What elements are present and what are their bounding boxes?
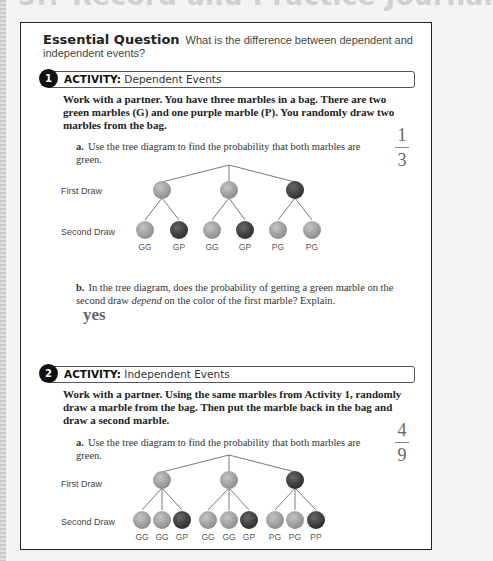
green-marble-icon	[203, 221, 221, 239]
answer-fraction: 4 9	[393, 421, 411, 464]
outcome-label: GG	[135, 532, 148, 542]
answer-yes: yes	[83, 305, 106, 325]
second-draw-label: Second Draw	[61, 227, 116, 237]
activity-title-bar: ACTIVITY: Dependent Events	[47, 71, 415, 88]
purple-marble-icon	[173, 511, 191, 529]
outcome-label: GG	[205, 242, 218, 252]
first-draw-label: First Draw	[61, 479, 102, 489]
activity-number-badge: 2	[39, 364, 58, 383]
fraction-bar	[395, 147, 409, 148]
part-letter: b.	[76, 282, 84, 293]
outcome-label: GP	[173, 242, 186, 252]
outcome-label: GG	[155, 532, 168, 542]
journal-box: Essential QuestionWhat is the difference…	[20, 22, 432, 550]
second-draw-marbles	[136, 221, 321, 239]
green-marble-icon	[133, 511, 151, 529]
activity-1-prompt: Work with a partner. You have three marb…	[63, 93, 403, 132]
activity-1-part-b: b.In the tree diagram, does the probabil…	[76, 281, 396, 307]
fraction-bar	[395, 442, 409, 443]
activity-label: ACTIVITY:	[64, 73, 121, 85]
first-draw-marbles	[153, 471, 304, 489]
part-letter: a.	[76, 141, 84, 152]
outcome-label: GP	[176, 532, 189, 542]
first-draw-marbles	[153, 181, 304, 199]
fraction-denominator: 9	[398, 445, 407, 465]
first-draw-label: First Draw	[61, 186, 102, 196]
outcome-label: GP	[239, 242, 252, 252]
activity-1-header: 1 ACTIVITY: Dependent Events	[39, 71, 415, 88]
emphasis-text: depend	[131, 295, 161, 306]
activity-title-bar: ACTIVITY: Independent Events	[47, 366, 415, 383]
essential-question-label: Essential Question	[43, 32, 180, 47]
fraction-numerator: 1	[398, 125, 407, 145]
fraction-denominator: 3	[398, 150, 407, 170]
outcome-label: GG	[222, 532, 235, 542]
green-marble-icon	[269, 221, 287, 239]
activity-title: Independent Events	[124, 368, 229, 380]
essential-question: Essential QuestionWhat is the difference…	[43, 33, 413, 60]
outcome-label: GG	[138, 242, 151, 252]
outcome-label: PG	[289, 532, 301, 542]
tree-diagram-independent: First Draw Second Draw GG GG GP GG GG GP…	[61, 450, 381, 545]
purple-marble-icon	[170, 221, 188, 239]
green-marble-icon	[286, 511, 304, 529]
second-draw-marbles	[133, 511, 325, 529]
part-text: on the color of the first marble? Explai…	[162, 295, 336, 306]
green-marble-icon	[220, 511, 238, 529]
green-marble-icon	[153, 181, 171, 199]
outcome-label: GG	[201, 532, 214, 542]
activity-number-badge: 1	[39, 69, 58, 88]
outcome-label: PG	[306, 242, 318, 252]
green-marble-icon	[266, 511, 284, 529]
green-marble-icon	[153, 511, 171, 529]
green-marble-icon	[220, 471, 238, 489]
fraction-numerator: 4	[398, 420, 407, 440]
green-marble-icon	[199, 511, 217, 529]
part-letter: a.	[76, 437, 84, 448]
green-marble-icon	[303, 221, 321, 239]
activity-2-header: 2 ACTIVITY: Independent Events	[39, 366, 415, 383]
purple-marble-icon	[286, 181, 304, 199]
purple-marble-icon	[286, 471, 304, 489]
answer-fraction: 1 3	[393, 126, 411, 169]
purple-marble-icon	[236, 221, 254, 239]
outcome-label: PG	[272, 242, 284, 252]
purple-marble-icon	[240, 511, 258, 529]
activity-title: Dependent Events	[124, 73, 221, 85]
page-edge	[0, 0, 6, 561]
outcome-label: PP	[310, 532, 322, 542]
green-marble-icon	[153, 471, 171, 489]
second-draw-label: Second Draw	[61, 517, 116, 527]
activity-label: ACTIVITY:	[64, 368, 121, 380]
outcome-label: GP	[243, 532, 256, 542]
outcome-label: PG	[269, 532, 281, 542]
purple-marble-icon	[307, 511, 325, 529]
green-marble-icon	[220, 181, 238, 199]
green-marble-icon	[136, 221, 154, 239]
activity-2-prompt: Work with a partner. Using the same marb…	[63, 388, 403, 427]
page-title: 3.? Record and Practice Journal	[18, 0, 493, 11]
tree-diagram-dependent: First Draw Second Draw GG GP GG GP PG PG	[61, 160, 381, 255]
